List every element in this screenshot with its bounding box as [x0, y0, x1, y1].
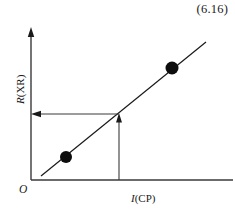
projection-horizontal-arrowhead: [31, 111, 41, 117]
y-axis-label: R(XR): [14, 74, 27, 105]
data-point: [60, 151, 72, 163]
y-axis-label-paren: (XR): [14, 74, 27, 97]
origin-label: O: [19, 183, 28, 195]
figure-container: (6.16) R(XR): [0, 0, 235, 214]
data-point: [166, 62, 179, 75]
x-axis-label-paren: (CP): [135, 192, 156, 205]
x-axis-label: I(CP): [130, 192, 156, 205]
y-axis-arrowhead: [28, 27, 34, 37]
plot-canvas: R(XR) I(CP) O: [0, 0, 235, 214]
